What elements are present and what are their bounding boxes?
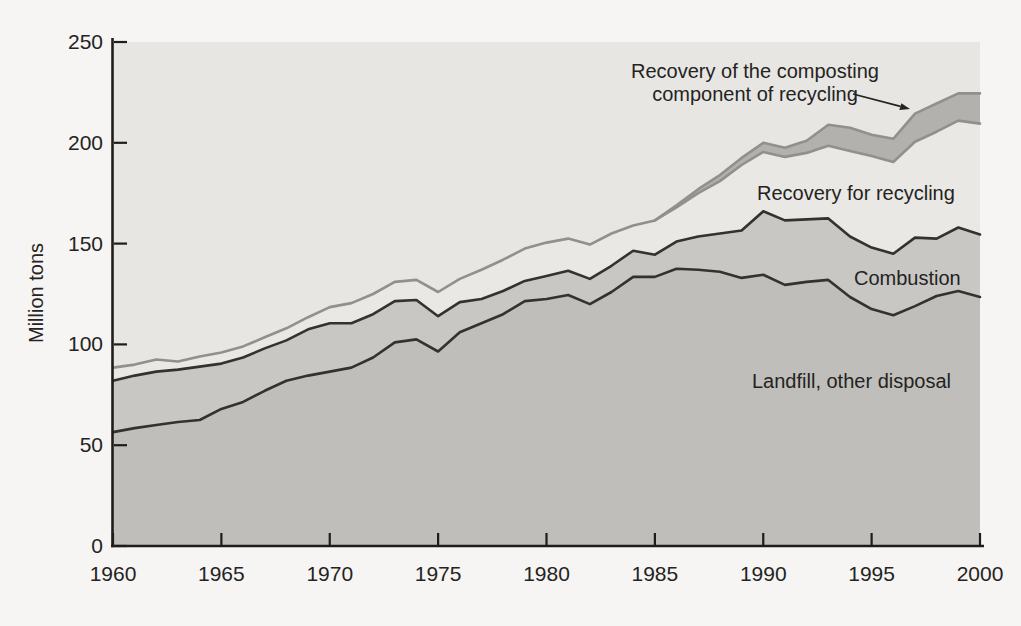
- x-tick-label: 1960: [90, 562, 137, 585]
- x-tick-label: 1975: [415, 562, 462, 585]
- composting-annotation-label: Recovery of the composting component of …: [613, 60, 897, 106]
- x-tick-label: 1965: [198, 562, 245, 585]
- landfill-area-label: Landfill, other disposal: [752, 370, 951, 393]
- y-axis-title: Million tons: [25, 243, 48, 343]
- y-tick-label: 150: [68, 232, 103, 255]
- x-tick-label: 1995: [848, 562, 895, 585]
- y-tick-label: 0: [91, 534, 103, 557]
- x-tick-label: 1990: [740, 562, 787, 585]
- y-tick-label: 200: [68, 131, 103, 154]
- x-tick-label: 1985: [632, 562, 679, 585]
- x-tick-label: 1970: [306, 562, 353, 585]
- combustion-area-label: Combustion: [854, 267, 961, 290]
- y-tick-label: 50: [80, 433, 103, 456]
- y-tick-label: 100: [68, 332, 103, 355]
- y-tick-label: 250: [68, 30, 103, 53]
- recycling-area-label: Recovery for recycling: [757, 182, 955, 205]
- x-tick-label: 2000: [957, 562, 1004, 585]
- figure: 0501001502002501960196519701975198019851…: [0, 0, 1021, 626]
- x-tick-label: 1980: [523, 562, 570, 585]
